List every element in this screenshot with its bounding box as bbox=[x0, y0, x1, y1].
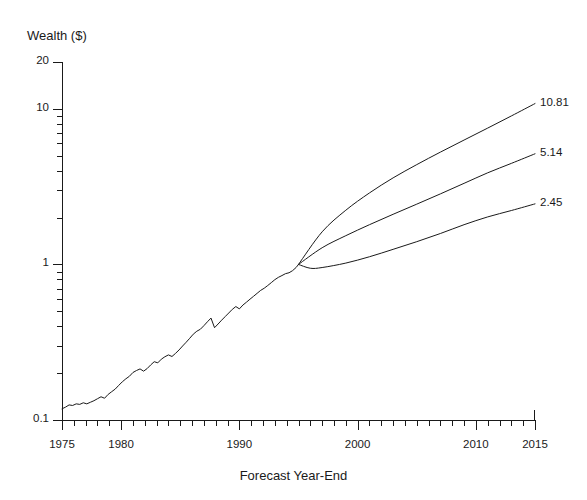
historical-line bbox=[62, 264, 299, 408]
x-tick-label: 2015 bbox=[505, 438, 565, 450]
x-axis-title: Forecast Year-End bbox=[0, 468, 587, 483]
y-tick-label: 1 bbox=[0, 256, 49, 268]
middle-forecast-line bbox=[299, 154, 536, 265]
x-tick-label: 1975 bbox=[32, 438, 92, 450]
forecast-endpoint-label: 10.81 bbox=[540, 96, 569, 108]
y-tick-label: 20 bbox=[0, 54, 49, 66]
lower-forecast-line bbox=[299, 204, 536, 269]
y-tick-label: 10 bbox=[0, 101, 49, 113]
wealth-forecast-chart: Wealth ($) 201010.1 19751980199020002010… bbox=[0, 0, 587, 500]
x-tick-label: 1980 bbox=[91, 438, 151, 450]
upper-forecast-line bbox=[299, 104, 536, 265]
x-tick-label: 2010 bbox=[446, 438, 506, 450]
x-tick-label: 1990 bbox=[209, 438, 269, 450]
forecast-endpoint-label: 5.14 bbox=[540, 146, 562, 158]
axes-group bbox=[53, 62, 536, 430]
plot-area bbox=[0, 0, 587, 500]
y-tick-label: 0.1 bbox=[0, 412, 49, 424]
forecast-endpoint-label: 2.45 bbox=[540, 196, 562, 208]
x-tick-label: 2000 bbox=[328, 438, 388, 450]
series-group bbox=[62, 104, 535, 409]
